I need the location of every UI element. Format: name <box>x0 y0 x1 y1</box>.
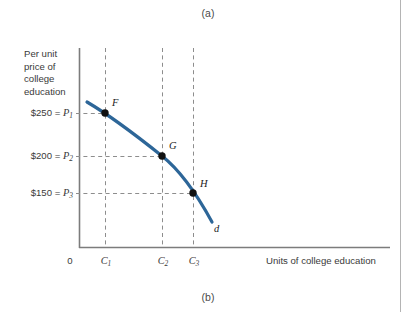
y-tick-label-p3: $150 = P3 <box>0 187 73 200</box>
data-point-h <box>189 189 196 196</box>
point-label-g: G <box>169 140 177 151</box>
x-tick-sub-c3: 3 <box>196 259 200 268</box>
y-tick-label-p1: $250 = P1 <box>0 107 73 120</box>
y-axis-title: Per unit price of college education <box>24 48 80 98</box>
x-tick-label-c1: C1 <box>98 255 114 268</box>
y-tick-price-p1: $250 <box>31 107 52 118</box>
x-tick-sub-c2: 2 <box>165 259 169 268</box>
point-label-h: H <box>200 178 208 189</box>
y-tick-price-p3: $150 <box>31 187 52 198</box>
x-tick-label-origin: 0 <box>63 255 77 266</box>
y-tick-eq-p3: = <box>52 187 63 198</box>
data-point-g <box>158 152 165 159</box>
curve-label-d: d <box>214 223 219 234</box>
y-tick-eq-p1: = <box>52 107 63 118</box>
point-label-f: F <box>112 97 118 108</box>
x-tick-var-c2: C <box>158 255 165 266</box>
y-axis-title-line-3: college <box>24 73 80 86</box>
y-tick-sub-p1: 1 <box>69 111 73 120</box>
y-axis-title-line-1: Per unit <box>24 48 80 61</box>
x-tick-sub-c1: 1 <box>108 259 112 268</box>
x-axis-title: Units of college education <box>266 255 376 266</box>
figure-canvas: (a) Per unit price of col <box>0 0 416 312</box>
page-right-border <box>400 0 401 312</box>
x-tick-label-c3: C3 <box>186 255 202 268</box>
y-tick-eq-p2: = <box>52 150 63 161</box>
y-axis-title-line-2: price of <box>24 61 80 74</box>
panel-label-b: (b) <box>0 291 416 303</box>
y-tick-price-p2: $200 <box>31 150 52 161</box>
y-tick-sub-p3: 3 <box>69 191 73 200</box>
y-axis-title-line-4: education <box>24 86 80 99</box>
x-tick-label-c2: C2 <box>155 255 171 268</box>
y-tick-label-p2: $200 = P2 <box>0 150 73 163</box>
data-point-f <box>101 109 108 116</box>
demand-curve-chart: Per unit price of college education $250… <box>0 0 416 312</box>
x-tick-var-c3: C <box>189 255 196 266</box>
y-tick-sub-p2: 2 <box>69 154 73 163</box>
x-tick-var-c1: C <box>101 255 108 266</box>
